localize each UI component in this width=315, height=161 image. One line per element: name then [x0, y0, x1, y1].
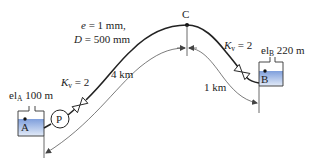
node-b-label: B: [261, 74, 268, 85]
pipe-segment-reservoir-to-pump: [44, 124, 51, 128]
diameter-value: = 500 mm: [85, 33, 130, 45]
diameter-var: D: [74, 33, 82, 45]
elevation-value: 220 m: [277, 44, 305, 56]
pipe-segment-pump-to-valve: [68, 109, 75, 115]
roughness-value: = 1 mm,: [89, 19, 126, 31]
valve-right: [234, 64, 250, 79]
elevation-sub: A: [17, 94, 22, 103]
distance-label-1km: 1 km: [204, 82, 226, 93]
k-sub: v: [231, 44, 235, 53]
elevation-value: 100 m: [25, 89, 53, 101]
k-sub: v: [68, 81, 72, 90]
diameter-label: D = 500 mm: [74, 34, 130, 45]
k-value: = 2: [75, 76, 89, 88]
elevation-sub: B: [269, 49, 274, 58]
node-c-label: C: [182, 9, 189, 20]
reservoir-a-elevation-label: elA 100 m: [9, 90, 53, 103]
valve-icon: [234, 64, 250, 79]
distance-label-4km: 4 km: [111, 69, 133, 80]
node-a-label: A: [21, 122, 29, 133]
elevation-prefix: el: [9, 89, 17, 101]
pump-label: P: [56, 114, 62, 125]
roughness-label: e = 1 mm,: [81, 20, 126, 31]
valve-right-k-label: Kv = 2: [224, 40, 252, 53]
reservoir-b: [259, 57, 283, 113]
k-value: = 2: [238, 39, 252, 51]
dimension-line-4km: [46, 48, 185, 153]
valve-left-k-label: Kv = 2: [61, 77, 89, 90]
roughness-var: e: [81, 19, 86, 31]
pipe-segment-valve-to-reservoir-b: [246, 77, 259, 83]
elevation-prefix: el: [261, 44, 269, 56]
reservoir-b-elevation-label: elB 220 m: [261, 45, 305, 58]
